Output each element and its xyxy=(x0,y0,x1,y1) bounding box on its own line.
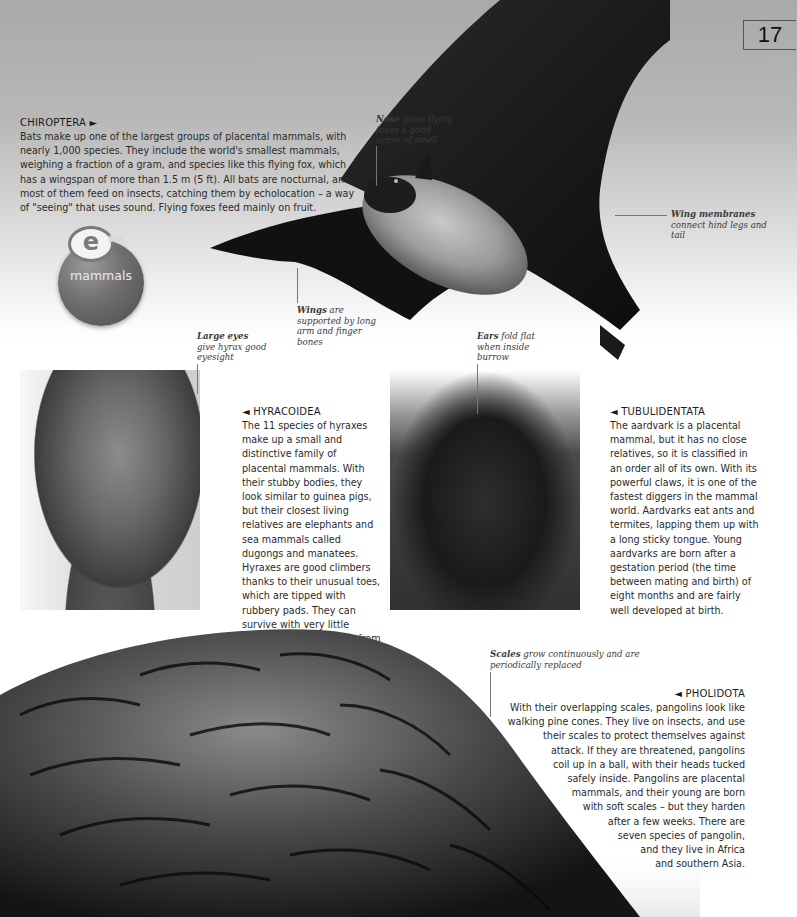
caption-wing-membranes: Wing membranes connect hind legs and tai… xyxy=(671,209,781,241)
badge-label[interactable]: mammals xyxy=(58,268,144,283)
leader-line-large-eyes xyxy=(197,364,198,394)
leader-line-wing-membranes xyxy=(615,215,667,216)
pholidota-line: safely inside. Pangolins are placental xyxy=(505,772,745,786)
leader-line-ears xyxy=(477,364,478,414)
caption-nose: Nose gives flying foxes a good sense of … xyxy=(376,114,456,146)
e-link-icon: e xyxy=(68,226,114,262)
pholidota-body: With their overlapping scales, pangolins… xyxy=(505,701,745,871)
pholidota-line: mammals, and their young are born xyxy=(505,786,745,800)
pholidota-line: and they live in Africa xyxy=(505,843,745,857)
pholidota-line: coil up in a ball, with their heads tuck… xyxy=(505,758,745,772)
fast-forward-icon: ▶▶| xyxy=(109,232,124,245)
pholidota-line: after a few weeks. There are xyxy=(505,815,745,829)
caption-nose-bold: Nose xyxy=(376,114,400,124)
caption-scales: Scales grow continuously and are periodi… xyxy=(490,649,640,670)
page-number: 17 xyxy=(743,20,796,50)
tubulidentata-section: ◄ TUBULIDENTATA The aardvark is a placen… xyxy=(610,406,760,618)
pholidota-line: seven species of pangolin, xyxy=(505,829,745,843)
pholidota-line: walking pine cones. They live on insects… xyxy=(505,715,745,729)
caption-scales-bold: Scales xyxy=(490,649,521,659)
hyrax-photo xyxy=(20,370,200,610)
caption-wings: Wings are supported by long arm and fing… xyxy=(297,305,382,347)
pholidota-line: attack. If they are threatened, pangolin… xyxy=(505,744,745,758)
caption-ears-bold: Ears xyxy=(477,331,498,341)
tubulidentata-body: The aardvark is a placental mammal, but … xyxy=(610,419,760,618)
pholidota-section: ◄ PHOLIDOTA With their overlapping scale… xyxy=(505,688,745,871)
leader-line-wings xyxy=(297,268,298,303)
chiroptera-title: CHIROPTERA ► xyxy=(20,117,400,128)
caption-wing-membranes-text: connect hind legs and tail xyxy=(671,220,767,241)
pholidota-line: with soft scales – but they harden xyxy=(505,800,745,814)
tubulidentata-title: ◄ TUBULIDENTATA xyxy=(610,406,760,417)
pholidota-line: their scales to protect themselves again… xyxy=(505,729,745,743)
pholidota-line: and southern Asia. xyxy=(505,857,745,871)
hyracoidea-section: ◄ HYRACOIDEA The 11 species of hyraxes m… xyxy=(242,406,382,660)
leader-line-nose xyxy=(376,146,377,186)
caption-large-eyes-bold: Large eyes xyxy=(197,331,248,341)
pholidota-title: ◄ PHOLIDOTA xyxy=(505,688,745,699)
caption-ears: Ears fold flat when inside burrow xyxy=(477,331,547,363)
caption-wing-membranes-bold: Wing membranes xyxy=(671,209,755,219)
aardvark-photo xyxy=(390,370,580,610)
caption-large-eyes: Large eyes give hyrax good eyesight xyxy=(197,331,267,363)
caption-large-eyes-text: give hyrax good eyesight xyxy=(197,342,266,363)
chiroptera-body: Bats make up one of the largest groups o… xyxy=(20,130,355,215)
chiroptera-section: CHIROPTERA ► Bats make up one of the lar… xyxy=(20,117,400,215)
pholidota-line: With their overlapping scales, pangolins… xyxy=(505,701,745,715)
caption-wings-bold: Wings xyxy=(297,305,327,315)
leader-line-scales xyxy=(490,672,491,717)
hyracoidea-title: ◄ HYRACOIDEA xyxy=(242,406,382,417)
